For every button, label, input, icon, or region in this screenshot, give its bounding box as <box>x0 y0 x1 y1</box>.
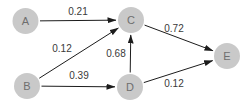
edge-weight-label-C-E: 0.72 <box>164 23 184 34</box>
edge-weight-label-D-E: 0.12 <box>164 78 184 89</box>
node-label-D: D <box>126 81 134 93</box>
node-label-C: C <box>127 14 135 26</box>
edge-B-D <box>41 86 115 87</box>
graph-diagram: ABCDE 0.210.120.390.680.720.12 <box>0 0 249 110</box>
edge-weight-label-A-C: 0.21 <box>68 6 88 17</box>
node-label-B: B <box>23 80 30 92</box>
graph-svg: ABCDE 0.210.120.390.680.720.12 <box>0 0 249 110</box>
edge-A-C <box>40 20 116 21</box>
edge-weight-label-B-C: 0.12 <box>52 43 72 54</box>
edge-weight-label-B-D: 0.39 <box>69 70 89 81</box>
edge-D-C <box>130 35 131 73</box>
node-label-A: A <box>22 15 30 27</box>
node-label-E: E <box>223 50 230 62</box>
edge-weight-label-D-C: 0.68 <box>106 48 126 59</box>
